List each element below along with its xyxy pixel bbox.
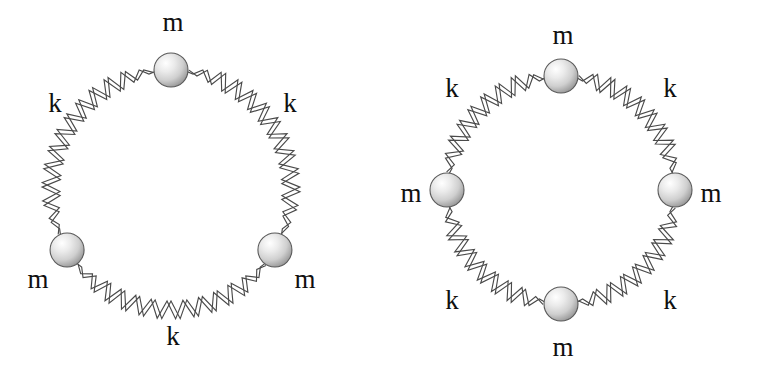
mass-label: m	[27, 266, 48, 293]
spring-coil	[575, 204, 677, 306]
spring-constant-label: k	[445, 75, 459, 102]
mass-sphere	[544, 287, 578, 321]
mass-label: m	[552, 22, 573, 49]
mass-sphere	[154, 53, 188, 87]
three-mass-ring-svg	[0, 0, 380, 375]
mass-group-right	[430, 59, 692, 321]
mass-sphere	[50, 233, 84, 267]
spring-coil	[445, 204, 547, 306]
spring-group-left	[42, 70, 300, 319]
spring-constant-label: k	[445, 287, 459, 314]
mass-sphere	[430, 173, 464, 207]
spring-coil	[75, 262, 268, 319]
spring-constant-label: k	[663, 75, 677, 102]
mass-label: m	[294, 266, 315, 293]
mass-label: m	[552, 334, 573, 361]
spring-constant-label: k	[283, 90, 297, 117]
figure-canvas: mmmkkkmmmmkkkk	[0, 0, 759, 375]
diagram-three-mass-ring	[0, 0, 380, 375]
mass-label: m	[700, 180, 721, 207]
spring-constant-label: k	[166, 323, 180, 350]
mass-sphere	[544, 59, 578, 93]
mass-sphere	[658, 173, 692, 207]
spring-constant-label: k	[663, 287, 677, 314]
mass-sphere	[258, 233, 292, 267]
mass-group-left	[50, 53, 292, 267]
spring-coil	[575, 74, 677, 176]
spring-constant-label: k	[48, 90, 62, 117]
spring-coil	[445, 74, 547, 176]
mass-label: m	[162, 9, 183, 36]
mass-label: m	[400, 180, 421, 207]
spring-group-right	[445, 74, 676, 305]
